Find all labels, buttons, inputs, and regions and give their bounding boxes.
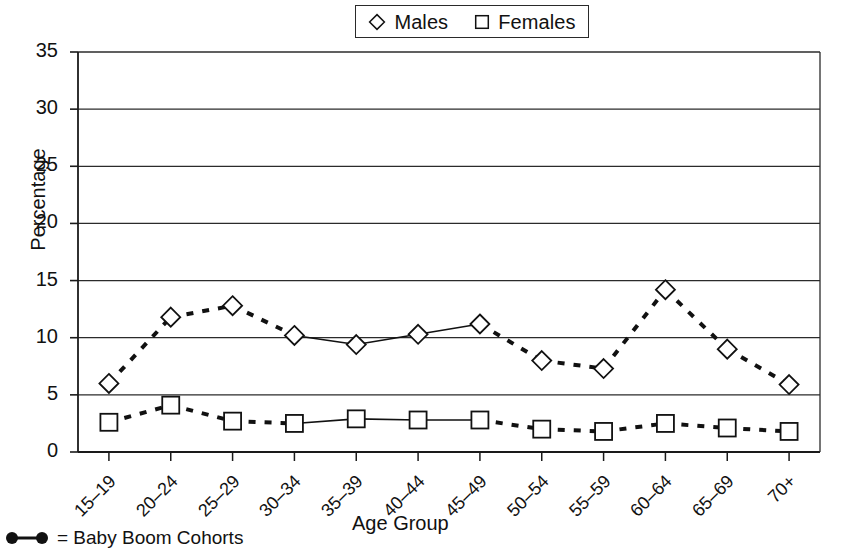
y-tick-label: 0	[16, 439, 58, 462]
data-point-square	[781, 423, 798, 440]
data-point-diamond	[532, 351, 551, 370]
legend-label-males: Males	[394, 12, 448, 32]
data-point-square	[471, 412, 488, 429]
data-point-diamond	[99, 374, 118, 393]
data-point-square	[100, 414, 117, 431]
diamond-icon	[368, 13, 386, 31]
data-point-diamond	[409, 325, 428, 344]
data-point-square	[595, 423, 612, 440]
y-tick-label: 20	[16, 210, 58, 233]
data-point-diamond	[718, 340, 737, 359]
series-segment-dashed	[665, 290, 727, 349]
data-point-diamond	[223, 296, 242, 315]
y-tick-label: 25	[16, 153, 58, 176]
data-point-diamond	[594, 359, 613, 378]
series-segment-solid	[418, 324, 480, 334]
baby-boom-footnote-text: = Baby Boom Cohorts	[57, 528, 243, 547]
data-point-square	[657, 415, 674, 432]
legend-label-females: Females	[498, 12, 575, 32]
y-tick-label: 10	[16, 325, 58, 348]
series-segment-dashed	[727, 349, 789, 384]
data-point-square	[224, 413, 241, 430]
data-point-square	[348, 410, 365, 427]
y-axis-title: Percentage	[27, 105, 50, 295]
series-segment-dashed	[109, 317, 171, 383]
series-segment-dashed	[480, 324, 542, 361]
series-segment-dashed	[604, 290, 666, 369]
y-tick-label: 35	[16, 39, 58, 62]
series-segment-dashed	[233, 306, 295, 336]
chart-legend: Males Females	[355, 5, 589, 38]
legend-entry-females: Females	[474, 12, 575, 32]
data-point-square	[162, 397, 179, 414]
data-point-diamond	[780, 375, 799, 394]
series-segment-solid	[356, 334, 418, 344]
chart-figure: Males Females Percentage Age Group = Bab…	[0, 0, 846, 558]
data-point-diamond	[470, 315, 489, 334]
legend-entry-males: Males	[368, 12, 448, 32]
y-tick-label: 15	[16, 268, 58, 291]
y-tick-label: 30	[16, 96, 58, 119]
data-point-square	[286, 415, 303, 432]
data-point-diamond	[656, 280, 675, 299]
data-point-diamond	[285, 326, 304, 345]
data-point-square	[719, 420, 736, 437]
square-icon	[474, 14, 490, 30]
series-segment-dashed	[171, 306, 233, 317]
data-point-square	[410, 412, 427, 429]
y-tick-label: 5	[16, 382, 58, 405]
data-point-square	[533, 421, 550, 438]
